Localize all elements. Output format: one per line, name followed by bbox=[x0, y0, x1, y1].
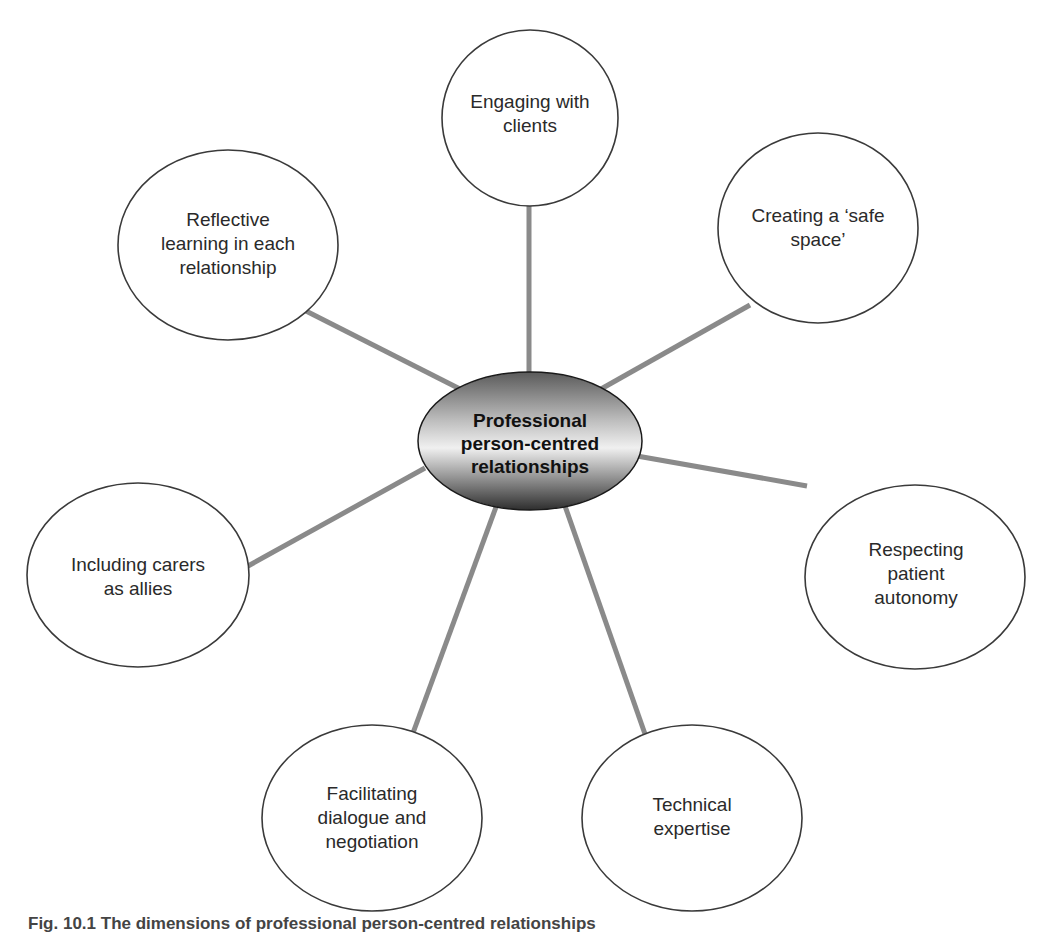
node-label-respecting: Respecting patient autonomy bbox=[846, 538, 987, 610]
connector-facilitating bbox=[413, 507, 496, 733]
connector-including bbox=[248, 468, 425, 566]
node-label-engaging: Engaging with clients bbox=[470, 90, 589, 138]
connector-reflective bbox=[306, 311, 460, 389]
node-label-creating: Creating a ‘safe space’ bbox=[751, 204, 884, 252]
connector-creating bbox=[601, 305, 750, 389]
figure-caption: Fig. 10.1 The dimensions of professional… bbox=[28, 914, 596, 932]
node-label-reflective: Reflective learning in each relationship bbox=[161, 208, 295, 280]
node-label-technical: Technical expertise bbox=[652, 793, 731, 841]
connector-technical bbox=[565, 506, 645, 734]
node-label-including: Including carers as allies bbox=[71, 553, 205, 601]
node-label-facilitating: Facilitating dialogue and negotiation bbox=[318, 782, 427, 854]
connector-respecting bbox=[637, 456, 807, 486]
center-node-label: Professional person-centred relationship… bbox=[461, 409, 599, 478]
